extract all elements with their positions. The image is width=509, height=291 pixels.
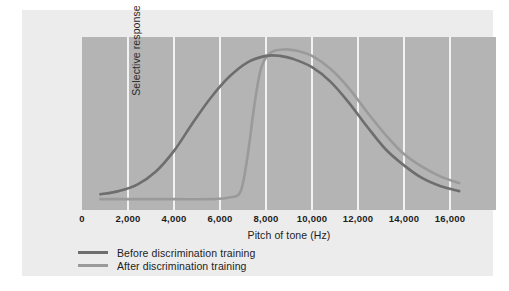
x-axis-title: Pitch of tone (Hz) xyxy=(82,229,496,241)
x-tick-label-4000: 4,000 xyxy=(162,213,187,224)
x-tick-label-10000: 10,000 xyxy=(297,213,327,224)
legend-label: After discrimination training xyxy=(117,260,247,272)
legend-swatch-line-icon xyxy=(78,264,108,267)
curves-svg xyxy=(82,37,496,210)
y-axis-label-text: Selective response xyxy=(130,0,142,137)
legend-item: After discrimination training xyxy=(78,259,378,272)
figure-card: Selective response 02,0004,0006,0008,000… xyxy=(22,10,493,276)
x-tick-label-12000: 12,000 xyxy=(343,213,373,224)
legend-swatch-line-icon xyxy=(78,251,108,254)
x-axis-tick-labels: 02,0004,0006,0008,00010,00012,00014,0001… xyxy=(82,213,496,227)
plot-area xyxy=(82,37,496,210)
chart-legend: Before discrimination trainingAfter disc… xyxy=(78,246,378,272)
legend-label: Before discrimination training xyxy=(117,247,255,259)
curve-before-discrimination-training xyxy=(100,55,459,194)
x-tick-label-6000: 6,000 xyxy=(208,213,233,224)
x-tick-label-0: 0 xyxy=(79,213,84,224)
x-tick-label-2000: 2,000 xyxy=(116,213,141,224)
figure-root: Selective response 02,0004,0006,0008,000… xyxy=(0,0,509,291)
y-axis-label: Selective response xyxy=(52,0,68,53)
x-tick-label-8000: 8,000 xyxy=(254,213,279,224)
x-tick-label-14000: 14,000 xyxy=(389,213,419,224)
curve-after-discrimination-training xyxy=(100,49,459,199)
legend-item: Before discrimination training xyxy=(78,246,378,259)
x-tick-label-16000: 16,000 xyxy=(435,213,465,224)
